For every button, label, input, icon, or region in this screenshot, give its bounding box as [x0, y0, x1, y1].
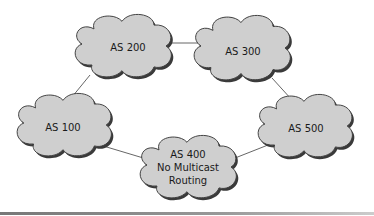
label-as300: AS 300 [225, 46, 260, 57]
label-as500: AS 500 [288, 123, 323, 134]
network-diagram: AS 200 AS 300 AS 100 AS 500 AS 400 No Mu… [0, 0, 374, 216]
bottom-divider [0, 212, 374, 215]
label-as100: AS 100 [45, 122, 80, 133]
label-as200: AS 200 [110, 42, 145, 53]
label-as400-line1: AS 400 [170, 149, 205, 160]
label-as400-line2: No Multicast [157, 162, 219, 173]
label-as400-line3: Routing [169, 175, 207, 186]
